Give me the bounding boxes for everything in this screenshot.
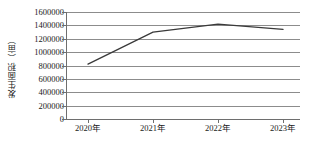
x-axis-tick-mark <box>153 119 154 123</box>
y-axis-tick-label: 0 <box>18 115 64 124</box>
y-axis-tick-mark <box>62 12 66 13</box>
y-axis-tick-label: 400000 <box>18 88 64 97</box>
y-axis-tick-label: 1400000 <box>18 21 64 30</box>
x-axis-tick-mark <box>88 119 89 123</box>
x-axis-line <box>66 119 300 120</box>
y-axis-tick-mark <box>62 119 66 120</box>
x-axis-tick-label: 2023年 <box>270 124 296 133</box>
y-axis-tick-mark <box>62 25 66 26</box>
x-axis-tick-labels: 2020年2021年2022年2023年 <box>0 124 314 138</box>
y-axis-tick-label: 1000000 <box>18 48 64 57</box>
series-line-group <box>66 12 300 119</box>
y-axis-tick-label: 1200000 <box>18 35 64 44</box>
y-axis-tick-mark <box>62 52 66 53</box>
y-axis-tick-label: 600000 <box>18 75 64 84</box>
y-axis-tick-mark <box>62 66 66 67</box>
x-axis-tick-label: 2020年 <box>75 124 101 133</box>
y-axis-tick-mark <box>62 39 66 40</box>
chart-container: 发生面积（亩） 16000001400000120000010000008000… <box>0 0 314 141</box>
y-axis-tick-label: 1600000 <box>18 8 64 17</box>
y-axis-title-text: 发生面积（亩） <box>9 35 18 98</box>
y-axis-tick-mark <box>62 79 66 80</box>
x-axis-tick-label: 2022年 <box>205 124 231 133</box>
x-axis-tick-mark <box>218 119 219 123</box>
y-axis-tick-labels: 1600000140000012000001000000800000600000… <box>18 0 64 141</box>
y-axis-tick-label: 200000 <box>18 101 64 110</box>
y-axis-tick-mark <box>62 106 66 107</box>
y-axis-tick-label: 800000 <box>18 61 64 70</box>
x-axis-tick-label: 2021年 <box>140 124 166 133</box>
y-axis-tick-mark <box>62 92 66 93</box>
x-axis-tick-mark <box>283 119 284 123</box>
series-line-fasheng-mianji <box>88 24 283 64</box>
